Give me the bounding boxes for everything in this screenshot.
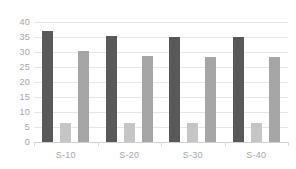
y-axis-tick-label: 10 (0, 108, 30, 117)
bar (233, 37, 244, 142)
y-axis-tick-label: 25 (0, 63, 30, 72)
x-axis-tick-label: S-20 (98, 150, 162, 160)
y-axis-tick-label: 20 (0, 78, 30, 87)
bar (142, 56, 153, 142)
bar (169, 37, 180, 142)
bar (42, 31, 53, 142)
bar (269, 57, 280, 142)
x-axis-tick-mark (34, 142, 35, 146)
bar (124, 123, 135, 143)
x-axis-tick-mark (225, 142, 226, 146)
x-axis-tick-mark (288, 142, 289, 146)
bar (60, 123, 71, 143)
y-axis-tick-label: 0 (0, 138, 30, 147)
y-axis-tick-label: 40 (0, 18, 30, 27)
bar-group (169, 22, 216, 142)
y-axis-tick-label: 15 (0, 93, 30, 102)
x-axis-tick-label: S-40 (225, 150, 289, 160)
y-axis-tick-label: 35 (0, 33, 30, 42)
bar (78, 51, 89, 142)
x-axis-tick-label: S-10 (34, 150, 98, 160)
x-axis-tick-mark (161, 142, 162, 146)
y-axis: 0510152025303540 (0, 0, 30, 169)
bar (187, 123, 198, 142)
x-axis-tick-label: S-30 (161, 150, 225, 160)
bar (251, 123, 262, 142)
bar-group (106, 22, 153, 142)
bar-group (233, 22, 280, 142)
bar-group (42, 22, 89, 142)
x-axis-tick-mark (98, 142, 99, 146)
y-axis-tick-label: 30 (0, 48, 30, 57)
plot-area (34, 22, 288, 142)
bar (106, 36, 117, 143)
bar (205, 57, 216, 142)
y-axis-tick-label: 5 (0, 123, 30, 132)
bar-chart: 0510152025303540 S-10S-20S-30S-40 (0, 0, 296, 169)
